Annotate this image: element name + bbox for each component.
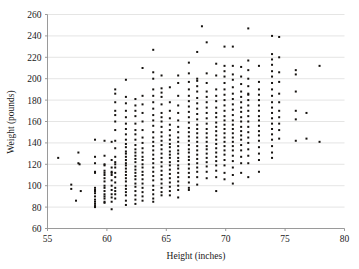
data-point [271, 101, 273, 103]
data-point [258, 110, 260, 112]
data-point [169, 186, 171, 188]
data-point [125, 123, 127, 125]
data-point [196, 51, 198, 53]
data-point [114, 140, 116, 142]
data-point [177, 141, 179, 143]
data-point [104, 155, 106, 157]
data-point [224, 76, 226, 78]
data-point [215, 112, 217, 114]
data-point [278, 36, 280, 38]
data-point [206, 117, 208, 119]
data-point [224, 149, 226, 151]
data-point [152, 198, 154, 200]
data-point [142, 137, 144, 139]
data-point [196, 128, 198, 130]
data-point [114, 190, 116, 192]
data-point [215, 88, 217, 90]
y-tick-label-240: 240 [27, 31, 42, 41]
data-point [271, 112, 273, 114]
data-point [142, 183, 144, 185]
data-point [247, 110, 249, 112]
data-point [232, 46, 234, 48]
data-point [114, 187, 116, 189]
data-point [271, 157, 273, 159]
data-point [152, 145, 154, 147]
data-point [125, 204, 127, 206]
data-point [232, 132, 234, 134]
data-point [177, 196, 179, 198]
data-point [196, 167, 198, 169]
data-point [224, 110, 226, 112]
y-axis-title: Weight (pounds) [6, 90, 17, 153]
data-point [232, 128, 234, 130]
data-point [240, 66, 242, 68]
data-point [240, 76, 242, 78]
data-point [224, 159, 226, 161]
data-point [94, 201, 96, 203]
data-point [169, 169, 171, 171]
data-point [125, 194, 127, 196]
data-point [188, 176, 190, 178]
data-point [104, 195, 106, 197]
data-point [114, 163, 116, 165]
data-point [114, 88, 116, 90]
data-point [206, 137, 208, 139]
data-point [125, 188, 127, 190]
data-point [111, 159, 113, 161]
data-point [240, 134, 242, 136]
data-point [232, 119, 234, 121]
data-point [278, 81, 280, 83]
data-point [114, 110, 116, 112]
data-point [111, 193, 113, 195]
data-point [125, 164, 127, 166]
data-point [169, 164, 171, 166]
data-point [232, 167, 234, 169]
data-point [206, 177, 208, 179]
data-point [125, 133, 127, 135]
data-point [188, 140, 190, 142]
data-point [196, 102, 198, 104]
data-point [196, 108, 198, 110]
data-point [247, 176, 249, 178]
data-point [215, 152, 217, 154]
data-point [188, 122, 190, 124]
data-point [161, 116, 163, 118]
data-point [215, 107, 217, 109]
data-point [240, 101, 242, 103]
data-point [94, 187, 96, 189]
data-point [152, 154, 154, 156]
data-point [134, 104, 136, 106]
data-point [152, 71, 154, 73]
data-point [258, 104, 260, 106]
data-point [196, 118, 198, 120]
data-point [152, 162, 154, 164]
data-point [206, 128, 208, 130]
y-tick-label-180: 180 [27, 96, 42, 106]
data-point [125, 139, 127, 141]
data-point [114, 167, 116, 169]
data-point [134, 165, 136, 167]
data-point [188, 72, 190, 74]
data-point [111, 201, 113, 203]
data-point [152, 179, 154, 181]
data-point [161, 121, 163, 123]
data-point [111, 167, 113, 169]
y-tick-label-200: 200 [27, 74, 42, 84]
data-point [125, 168, 127, 170]
data-point [70, 188, 72, 190]
data-point [232, 174, 234, 176]
data-point [278, 110, 280, 112]
height-weight-scatter-chart: 6080100120140160180200220240260 55606570… [0, 0, 359, 269]
data-point [104, 202, 106, 204]
data-point [278, 138, 280, 140]
data-point [188, 62, 190, 64]
data-point [188, 106, 190, 108]
data-point [224, 115, 226, 117]
data-point [177, 104, 179, 106]
data-point [271, 70, 273, 72]
data-point [142, 129, 144, 131]
data-point [224, 119, 226, 121]
data-point [142, 187, 144, 189]
data-point [258, 146, 260, 148]
data-point [134, 148, 136, 150]
